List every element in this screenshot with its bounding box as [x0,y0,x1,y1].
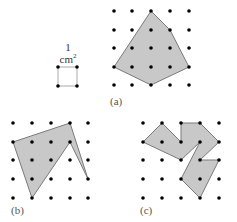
figure-c-label: (c) [140,205,152,216]
unit-text: cm [60,53,73,65]
figure-b-label: (b) [11,205,24,216]
unit-square [56,65,79,88]
figure-b [11,121,90,200]
figure-a [112,9,191,87]
geoboard-diagram [0,0,237,222]
unit-label-unit: cm2 [56,53,80,65]
figure-a-label: (a) [110,96,122,107]
unit-superscript: 2 [73,52,77,60]
figure-c [141,121,221,200]
